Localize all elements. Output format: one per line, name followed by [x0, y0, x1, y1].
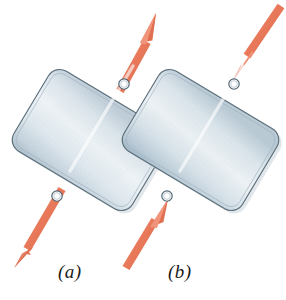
panel-a-hole-lower: [52, 191, 62, 201]
panel-a-caption: (a): [58, 261, 82, 283]
panel-b-hole-lower: [162, 191, 172, 201]
panel-b-caption: (b): [168, 261, 192, 283]
figure-diagram: [0, 0, 286, 300]
panel-a-hole-upper: [119, 79, 129, 89]
panel-b-hole-upper: [229, 79, 239, 89]
figure-root: (a) (b): [0, 0, 286, 300]
